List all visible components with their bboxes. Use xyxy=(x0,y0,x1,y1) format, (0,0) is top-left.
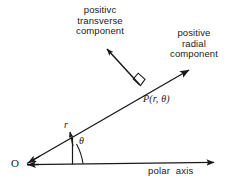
point-label: P(r, θ) xyxy=(143,93,170,104)
theta-arc xyxy=(77,144,84,164)
polar-axis-label: polar axis xyxy=(148,166,194,177)
origin-label: O xyxy=(11,157,19,169)
radial-ray-origin-arrow xyxy=(28,156,40,163)
polar-components-diagram: positivc transverse component positive r… xyxy=(0,0,243,184)
transverse-component-label: positivc transverse component xyxy=(61,5,139,37)
transverse-arrow-line xyxy=(107,49,140,85)
angle-label: θ xyxy=(79,135,84,146)
radius-label: r xyxy=(64,119,68,130)
radial-component-label: positive radial component xyxy=(152,28,236,60)
radial-ray-line xyxy=(27,70,189,164)
